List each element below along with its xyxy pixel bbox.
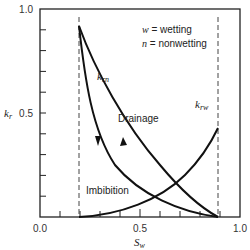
y-axis-ticks xyxy=(40,30,46,196)
x-tick-label-1: 1.0 xyxy=(233,223,247,234)
x-tick-label-05: 0.5 xyxy=(133,223,147,234)
krn-label: krn xyxy=(97,70,109,84)
y-axis-label: kr xyxy=(4,107,13,121)
relative-permeability-chart: 1.0 0.5 0.0 0.5 1.0 kr Sw w = wetting n … xyxy=(0,0,250,250)
y-tick-label-1: 1.0 xyxy=(19,4,33,15)
krw-label: krw xyxy=(195,98,209,112)
y-tick-label-05: 0.5 xyxy=(19,108,33,119)
legend-wetting: w = wetting xyxy=(142,24,192,35)
drainage-direction-arrow-icon xyxy=(120,137,127,146)
x-tick-label-0: 0.0 xyxy=(33,223,47,234)
imbibition-direction-arrow-icon xyxy=(95,136,101,146)
imbibition-label: Imbibition xyxy=(86,185,129,196)
drainage-label: Drainage xyxy=(118,113,159,124)
legend-nonwetting: n = nonwetting xyxy=(142,38,207,49)
x-axis-label: Sw xyxy=(134,236,146,250)
